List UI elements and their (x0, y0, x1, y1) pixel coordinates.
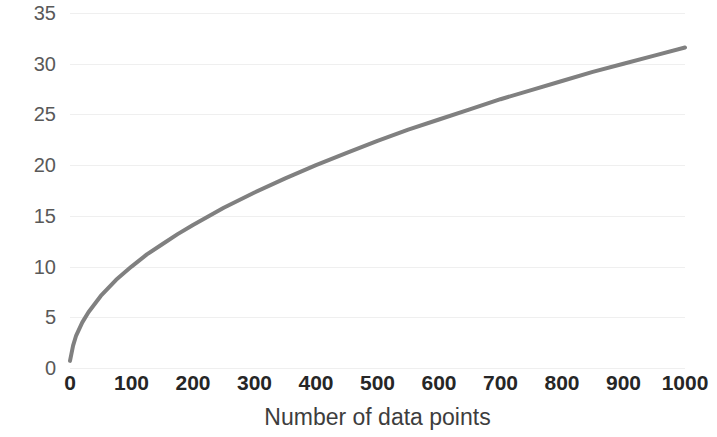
series-line-sqrt (70, 13, 685, 368)
y-tick-label-15: 15 (10, 206, 56, 226)
x-tick-label-1000: 1000 (645, 372, 717, 393)
y-tick-label-5: 5 (10, 307, 56, 327)
y-tick-label-10: 10 (10, 257, 56, 277)
x-axis-title: Number of data points (70, 404, 685, 431)
y-tick-label-25: 25 (10, 104, 56, 124)
y-tick-label-35: 35 (10, 3, 56, 23)
series-path (70, 47, 685, 360)
chart-figure: Number of classes 05101520253035 0100200… (0, 0, 717, 437)
gridline-y-0 (70, 368, 685, 369)
plot-area (70, 13, 685, 368)
y-tick-label-30: 30 (10, 54, 56, 74)
y-tick-label-20: 20 (10, 155, 56, 175)
